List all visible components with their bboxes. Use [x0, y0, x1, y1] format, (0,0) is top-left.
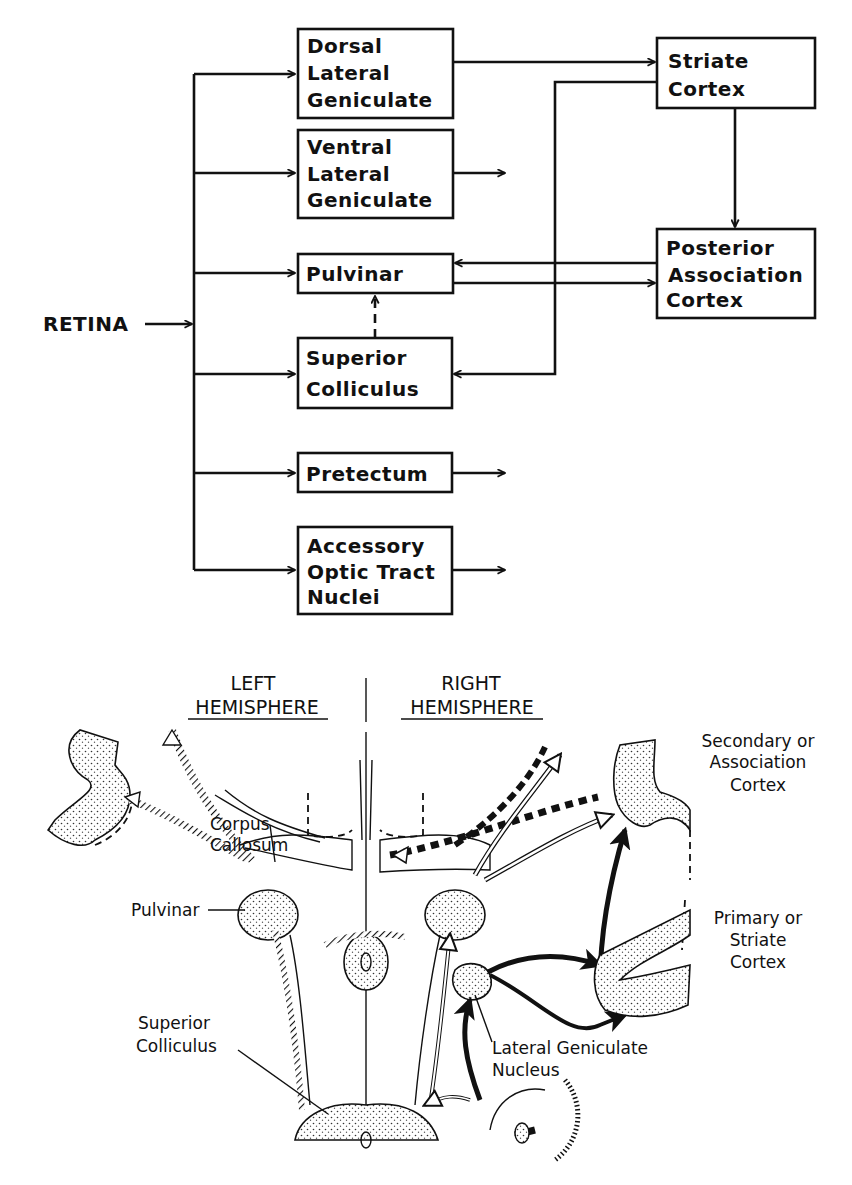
- svg-text:Superior: Superior: [306, 346, 407, 370]
- svg-text:Cortex: Cortex: [730, 775, 786, 795]
- pulvinar-left: [238, 890, 298, 940]
- box-ventral-lgn: Ventral Lateral Geniculate: [298, 130, 453, 218]
- svg-text:Dorsal: Dorsal: [307, 34, 382, 58]
- left-cortex: [48, 730, 130, 845]
- svg-text:Callosum: Callosum: [210, 835, 288, 855]
- svg-text:Cortex: Cortex: [730, 952, 786, 972]
- eye-retina: [555, 1080, 578, 1160]
- left-hemisphere-title-2: HEMISPHERE: [195, 696, 318, 718]
- box-accessory-optic-tract-nuclei: Accessory Optic Tract Nuclei: [298, 527, 452, 614]
- svg-text:Nucleus: Nucleus: [492, 1060, 560, 1080]
- retina-label: RETINA: [43, 312, 128, 336]
- svg-text:Colliculus: Colliculus: [306, 377, 419, 401]
- svg-text:Cortex: Cortex: [666, 288, 743, 312]
- left-hemisphere-title: LEFT: [231, 672, 276, 694]
- svg-text:Pulvinar: Pulvinar: [306, 262, 403, 286]
- box-striate-cortex: Striate Cortex: [657, 38, 815, 108]
- visual-pathways-figure: RETINA Dorsal Lateral Geniculate Ventral…: [0, 0, 852, 1185]
- brain-illustration: LEFT HEMISPHERE RIGHT HEMISPHERE: [48, 672, 814, 1160]
- svg-text:Posterior: Posterior: [666, 236, 774, 260]
- svg-text:Geniculate: Geniculate: [307, 188, 433, 212]
- svg-text:Ventral: Ventral: [307, 135, 392, 159]
- lgn-to-striate-arrow: [488, 956, 600, 972]
- svg-text:Nuclei: Nuclei: [307, 585, 380, 609]
- pulvinar-right: [425, 890, 485, 940]
- box-pulvinar: Pulvinar: [298, 254, 453, 293]
- svg-text:Lateral: Lateral: [307, 162, 390, 186]
- lateral-geniculate-nucleus: [453, 964, 492, 1000]
- svg-text:Pretectum: Pretectum: [306, 462, 428, 486]
- flowchart: RETINA Dorsal Lateral Geniculate Ventral…: [43, 29, 815, 614]
- box-dorsal-lgn: Dorsal Lateral Geniculate: [298, 29, 453, 118]
- striate-cortex-shape: [595, 910, 690, 1016]
- superior-colliculus-label: Superior: [138, 1013, 210, 1033]
- svg-text:Cortex: Cortex: [668, 77, 745, 101]
- svg-text:Geniculate: Geniculate: [307, 88, 433, 112]
- box-superior-colliculus: Superior Colliculus: [298, 338, 452, 408]
- box-pretectum: Pretectum: [298, 453, 452, 492]
- arrow-striate-to-superior-colliculus: [454, 82, 657, 374]
- svg-text:Association: Association: [710, 752, 807, 772]
- svg-text:Association: Association: [668, 263, 803, 287]
- svg-text:Optic Tract: Optic Tract: [307, 560, 435, 584]
- lens: [515, 1123, 529, 1143]
- right-hemisphere-title: RIGHT: [441, 672, 501, 694]
- primary-cortex-label: Primary or: [714, 908, 803, 928]
- association-cortex: [614, 740, 690, 830]
- svg-text:Accessory: Accessory: [307, 534, 425, 558]
- corpus-callosum-label: Corpus: [210, 814, 270, 834]
- lgn-label: Lateral Geniculate: [492, 1038, 648, 1058]
- third-ventricle-region: [344, 934, 388, 990]
- superior-colliculus-shape: [295, 1104, 438, 1140]
- right-hemisphere-title-2: HEMISPHERE: [410, 696, 533, 718]
- svg-text:Colliculus: Colliculus: [136, 1036, 217, 1056]
- box-posterior-association-cortex: Posterior Association Cortex: [657, 229, 815, 318]
- svg-text:Striate: Striate: [730, 930, 787, 950]
- svg-text:Lateral: Lateral: [307, 61, 390, 85]
- superior-colliculus-leader: [238, 1050, 328, 1114]
- sc-to-pulvinar-left-arrow: [275, 930, 302, 1110]
- secondary-cortex-label: Secondary or: [702, 731, 815, 751]
- retina-to-lgn-arrow: [465, 1000, 480, 1100]
- lgn-leader: [475, 995, 492, 1042]
- svg-text:Striate: Striate: [668, 49, 749, 73]
- sc-to-pulvinar-right-arrow: [430, 935, 450, 1105]
- pulvinar-label: Pulvinar: [131, 900, 199, 920]
